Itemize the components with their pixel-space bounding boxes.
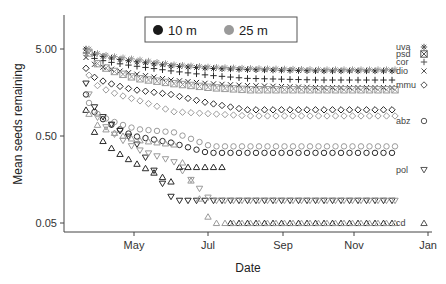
- x-tick-label: Jan: [419, 239, 437, 251]
- species-labels: uvapsdcordiommuabzpolcd: [396, 42, 427, 228]
- x-axis-label: Date: [235, 261, 261, 275]
- species-label-cd: cd: [396, 218, 406, 228]
- seed-removal-chart: 5.000.500.05MayJulSepNovJanDateMean seed…: [0, 0, 446, 284]
- legend-label-25m: 25 m: [239, 23, 268, 38]
- legend-marker-25m: [224, 25, 234, 35]
- y-axis-label: Mean seeds remaining: [11, 63, 25, 184]
- y-tick-label: 0.05: [36, 217, 57, 229]
- legend-label-10m: 10 m: [168, 23, 197, 38]
- series-cd-10m: [83, 107, 395, 226]
- series-mmu-25m: [86, 72, 398, 119]
- series-uva-25m: [86, 46, 398, 73]
- species-label-pol: pol: [396, 165, 408, 175]
- x-tick-label: Nov: [344, 239, 364, 251]
- species-label-dio: dio: [396, 66, 408, 76]
- species-label-mmu: mmu: [396, 80, 416, 90]
- legend-marker-10m: [153, 25, 163, 35]
- x-tick-label: Jul: [201, 239, 215, 251]
- species-label-abz: abz: [396, 116, 411, 126]
- legend: 10 m25 m: [145, 17, 297, 42]
- y-tick-label: 5.00: [36, 43, 57, 55]
- x-tick-label: Sep: [273, 239, 293, 251]
- series-cd-25m: [86, 111, 398, 226]
- x-tick-label: May: [124, 239, 145, 251]
- data-points: [83, 46, 398, 226]
- y-tick-label: 0.50: [36, 130, 57, 142]
